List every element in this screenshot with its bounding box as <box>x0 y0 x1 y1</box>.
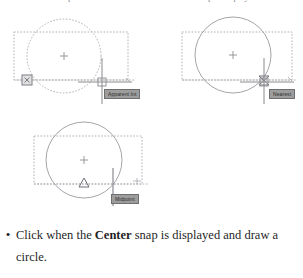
apparent-intersection-marker-icon <box>22 75 32 85</box>
midpoint-marker-icon <box>79 178 89 187</box>
top-cut-text-row: snap snap is displayed <box>0 0 303 7</box>
instruction-text-before: Click when the <box>16 228 95 242</box>
top-cut-text-left: snap <box>56 0 73 2</box>
center-cross-icon <box>229 51 237 59</box>
instruction-emphasis: Center <box>95 228 132 242</box>
instruction-text: Click when the Center snap is displayed … <box>16 224 303 268</box>
bullet-glyph: • <box>0 224 16 246</box>
instruction-list-item: • Click when the Center snap is displaye… <box>0 224 303 268</box>
dashed-rectangle <box>14 32 128 80</box>
center-cross-icon <box>60 52 68 60</box>
edge-tick <box>133 178 141 184</box>
top-cut-text-right: snap is displayed <box>196 0 258 2</box>
figure-midpoint <box>28 118 164 210</box>
snap-tooltip-apparent-int: Apparent Int <box>104 89 140 99</box>
snap-tooltip-midpoint: Midpoint <box>111 194 139 204</box>
center-cross-icon <box>80 156 88 164</box>
snap-tooltip-nearest: Nearest <box>269 89 295 99</box>
midpoint-drawing <box>28 118 164 210</box>
instruction-block: • Click when the Center snap is displaye… <box>0 224 303 268</box>
